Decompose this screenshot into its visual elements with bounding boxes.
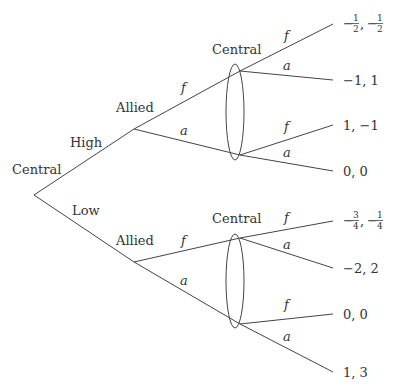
payoff-top-3: 1, −1 — [343, 118, 379, 133]
payoff-bottom-2: −2, 2 — [343, 261, 379, 276]
svg-text:,: , — [360, 213, 364, 228]
lower-allied-f-label: f — [180, 233, 188, 248]
l1-a-label: a — [283, 237, 291, 252]
l2-a-label: a — [283, 329, 291, 344]
svg-text:1: 1 — [353, 13, 359, 23]
payoff-bottom-4: 1, 3 — [343, 365, 368, 380]
lower-information-set — [226, 234, 244, 328]
lower-allied-label: Allied — [115, 233, 154, 248]
svg-text:2: 2 — [377, 24, 383, 34]
root-player-label: Central — [12, 162, 61, 177]
lower-central-label: Central — [212, 211, 261, 226]
u1-a-label: a — [283, 58, 291, 73]
edge-lower-allied-a — [134, 262, 240, 324]
upper-allied-f-label: f — [180, 80, 188, 95]
payoff-bottom-1: − 3 4 , − 1 4 — [343, 210, 383, 231]
svg-text:4: 4 — [377, 221, 383, 231]
upper-information-set — [226, 64, 244, 160]
svg-text:1: 1 — [377, 13, 383, 23]
svg-text:3: 3 — [353, 210, 359, 220]
svg-text:,: , — [360, 16, 364, 31]
u2-f-label: f — [283, 119, 291, 134]
payoff-top-1: − 1 2 , − 1 2 — [343, 13, 383, 34]
u2-a-label: a — [283, 145, 291, 160]
upper-allied-label: Allied — [115, 100, 154, 115]
game-tree-svg: Central Allied Allied Central Central Hi… — [0, 0, 395, 391]
upper-central-label: Central — [212, 42, 261, 57]
payoff-top-4: 0, 0 — [343, 164, 368, 179]
upper-allied-a-label: a — [180, 123, 188, 138]
payoff-bottom-3: 0, 0 — [343, 307, 368, 322]
edge-l2-f — [240, 314, 333, 324]
l2-f-label: f — [283, 297, 291, 312]
move-low-label: Low — [72, 203, 100, 218]
u1-f-label: f — [283, 28, 291, 43]
svg-text:2: 2 — [353, 24, 359, 34]
lower-allied-a-label: a — [180, 273, 188, 288]
svg-text:4: 4 — [353, 221, 359, 231]
move-high-label: High — [70, 135, 103, 150]
svg-text:1: 1 — [377, 210, 383, 220]
game-tree-diagram: Central Allied Allied Central Central Hi… — [0, 0, 395, 391]
payoff-top-2: −1, 1 — [343, 73, 379, 88]
l1-f-label: f — [283, 210, 291, 225]
